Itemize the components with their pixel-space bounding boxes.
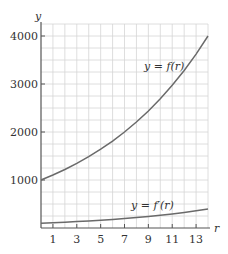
- y-tick-label: 3000: [10, 78, 38, 91]
- y-tick-label: 1000: [10, 174, 38, 187]
- y-tick-label: 4000: [10, 30, 38, 43]
- grid: [41, 24, 208, 228]
- y-axis-label: y: [34, 10, 42, 23]
- chart: 1357911131000200030004000 y r y = f(r) y…: [0, 0, 228, 254]
- f-curve-label: y = f(r): [143, 60, 184, 73]
- x-tick-label: 13: [189, 233, 203, 246]
- x-tick-label: 11: [165, 233, 179, 246]
- y-tick-label: 2000: [10, 126, 38, 139]
- x-tick-label: 3: [73, 233, 80, 246]
- x-tick-label: 7: [121, 233, 128, 246]
- x-axis-label: r: [214, 222, 220, 235]
- x-tick-label: 5: [97, 233, 104, 246]
- labels: y r y = f(r) y = f′(r): [34, 10, 220, 235]
- x-tick-label: 9: [145, 233, 152, 246]
- fprime-curve-label: y = f′(r): [130, 199, 174, 212]
- x-tick-label: 1: [49, 233, 56, 246]
